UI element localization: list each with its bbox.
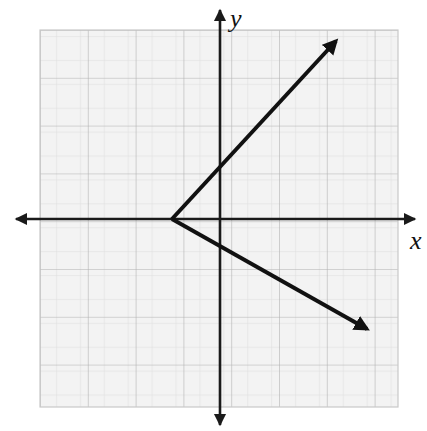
graph-figure: x y [0,0,427,431]
coordinate-plane-svg: x y [0,0,427,431]
x-axis-label: x [409,226,422,255]
y-axis-label: y [227,4,242,33]
